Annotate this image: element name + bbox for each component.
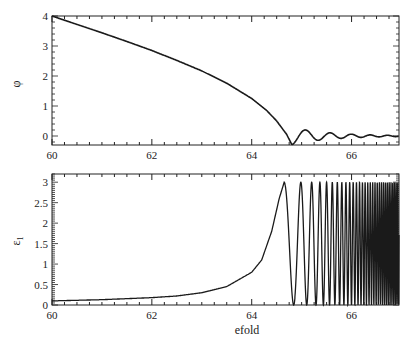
y-tick-label: 4 — [43, 10, 49, 22]
phi-tick-labels: 6062646601234 — [43, 10, 358, 161]
y-tick-label: 3 — [43, 40, 49, 52]
y-tick-label: 2 — [43, 70, 49, 82]
y-tick-label: 3 — [43, 176, 49, 188]
epsilon-curve — [52, 182, 399, 305]
epsilon-ylabel: ε1 — [9, 236, 25, 245]
x-tick-label: 60 — [47, 309, 59, 321]
x-tick-label: 60 — [47, 149, 59, 161]
phi-panel: 6062646601234 φ — [9, 10, 399, 161]
x-tick-label: 62 — [146, 309, 157, 321]
phi-ylabel: φ — [9, 80, 23, 87]
y-tick-label: 1 — [43, 100, 49, 112]
y-tick-label: 0.5 — [34, 279, 48, 291]
y-tick-label: 1 — [43, 258, 49, 270]
phi-axis-ticks — [52, 16, 399, 145]
x-tick-label: 64 — [246, 149, 258, 161]
figure: 6062646601234 φ 6062646600.511.522.53 ε1… — [0, 0, 413, 349]
y-tick-label: 0 — [43, 130, 49, 142]
y-tick-label: 0 — [43, 299, 49, 311]
efold-xlabel: efold — [235, 323, 260, 337]
x-tick-label: 66 — [346, 309, 358, 321]
phi-curve — [52, 16, 399, 145]
x-tick-label: 62 — [146, 149, 157, 161]
y-tick-label: 1.5 — [34, 238, 48, 250]
phi-plot-frame — [52, 16, 399, 145]
x-tick-label: 64 — [246, 309, 258, 321]
x-tick-label: 66 — [346, 149, 358, 161]
epsilon-panel: 6062646600.511.522.53 ε1 efold — [9, 174, 399, 337]
y-tick-label: 2.5 — [34, 197, 48, 209]
y-tick-label: 2 — [43, 217, 49, 229]
